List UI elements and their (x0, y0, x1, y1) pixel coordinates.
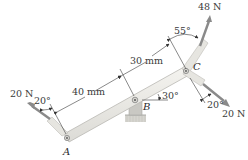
pin-A (64, 135, 69, 140)
angle-label-55: 55° (174, 25, 191, 36)
lever-diagram: 48 N 55° 30 mm 40 mm 30° 20 N 20° 20° 20… (0, 0, 248, 160)
force-label-20N-C: 20 N (222, 108, 245, 119)
dimension-label-40mm: 40 mm (72, 86, 105, 97)
force-label-48N: 48 N (198, 1, 221, 12)
angle-label-20-A: 20° (34, 95, 51, 106)
angle-label-30: 30° (162, 90, 179, 101)
force-label-20N-A: 20 N (10, 88, 33, 99)
pin-B (132, 97, 138, 103)
pin-C (183, 68, 188, 73)
point-label-C: C (193, 61, 201, 72)
point-label-B: B (142, 101, 150, 112)
dimension-label-30mm: 30 mm (130, 55, 163, 66)
point-label-A: A (62, 146, 70, 157)
